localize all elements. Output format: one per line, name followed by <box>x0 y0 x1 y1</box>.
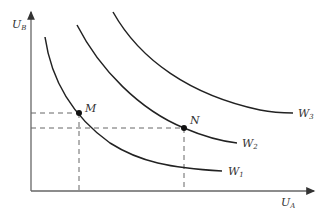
curve-w3 <box>113 12 293 113</box>
point-m <box>76 110 82 116</box>
y-axis-label: UB <box>12 18 26 32</box>
curve-w3-label: W3 <box>298 107 314 121</box>
point-n-label: N <box>189 114 200 127</box>
curve-w2-label: W2 <box>242 137 258 151</box>
curve-w1 <box>45 37 222 171</box>
x-axis-label: UA <box>281 196 295 210</box>
curve-w1-label: W1 <box>228 165 244 179</box>
axes <box>31 12 314 191</box>
point-n <box>181 125 187 131</box>
point-m-label: M <box>84 102 97 115</box>
curve-w2 <box>77 25 237 143</box>
guide-lines <box>31 113 184 191</box>
diagram-canvas: UB UA M N W1 W2 W3 <box>0 0 324 218</box>
